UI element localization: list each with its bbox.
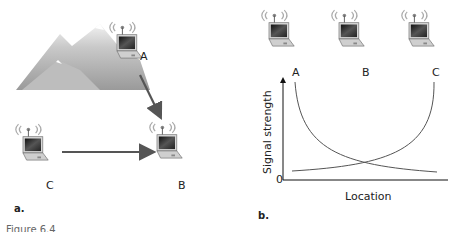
node-label-c: C [46,179,54,192]
y-axis-label: Signal strength [261,90,274,174]
laptop-c-icon [16,124,48,160]
node-b-label-a: A [292,66,300,79]
panel-b-label: b. [258,210,269,221]
x-axis-label: Location [345,190,392,203]
node-label-a: A [140,50,148,63]
node-b-label-b: B [362,66,370,79]
origin-label: 0 [276,173,283,186]
laptop-b-c-icon [402,10,434,46]
node-b-label-c: C [432,66,440,79]
laptop-b-icon [150,122,182,158]
node-label-b: B [178,179,186,192]
figure-caption: Figure 6.4 [6,224,56,232]
panel-a-label: a. [14,203,25,214]
arrow-a-to-b [140,75,160,116]
laptop-b-a-icon [262,10,294,46]
signal-curve-a [295,82,437,172]
laptop-b-b-icon [332,10,364,46]
diagram-canvas [0,0,462,232]
signal-curve-c [292,82,434,171]
